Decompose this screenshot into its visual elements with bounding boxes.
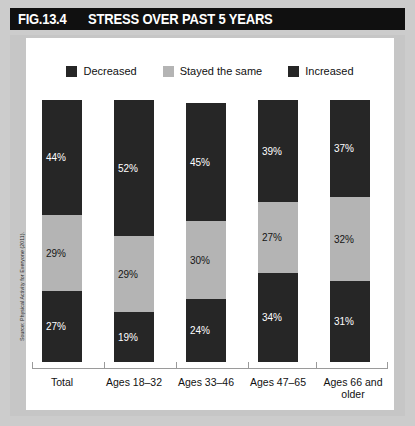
legend-label-stayed-the-same: Stayed the same — [180, 65, 263, 77]
legend-item-stayed-the-same[interactable]: Stayed the same — [163, 65, 263, 77]
chart-plot-area: 44% 29% 27% 52% 29% — [26, 100, 394, 362]
bar-segment-stayed-the-same[interactable]: 29% — [42, 215, 82, 291]
chart-panel: Decreased Stayed the same Increased 44% — [26, 38, 394, 410]
bar-segment-value: 29% — [114, 269, 138, 280]
bar-segment-value: 39% — [258, 146, 282, 157]
category-label-ages-47-65: Ages 47–65 — [242, 376, 314, 388]
bar-segment-value: 34% — [258, 312, 282, 323]
bar-segment-decreased[interactable]: 45% — [186, 103, 226, 221]
bar-segment-stayed-the-same[interactable]: 27% — [258, 202, 298, 273]
bar-column-ages-47-65[interactable]: 39% 27% 34% — [258, 100, 298, 362]
axis-tick — [176, 362, 177, 369]
category-label-ages-33-46: Ages 33–46 — [170, 376, 242, 388]
bar-segment-decreased[interactable]: 52% — [114, 100, 154, 236]
bar-segment-value: 44% — [42, 152, 66, 163]
bar-segment-increased[interactable]: 19% — [114, 312, 154, 362]
legend-label-increased: Increased — [305, 65, 353, 77]
bar-segment-value: 29% — [42, 248, 66, 259]
bar-segment-value: 37% — [330, 143, 354, 154]
square-swatch-icon — [66, 66, 77, 77]
chart-legend: Decreased Stayed the same Increased — [26, 65, 394, 77]
legend-item-decreased[interactable]: Decreased — [66, 65, 136, 77]
figure-plate: Source: Physical Activity for Everyone (… — [10, 35, 405, 416]
bar-segment-decreased[interactable]: 44% — [42, 100, 82, 215]
axis-tick — [316, 362, 317, 369]
bar-column-ages-33-46[interactable]: 45% 30% 24% — [186, 103, 226, 362]
axis-tick — [248, 362, 249, 369]
square-swatch-icon — [288, 66, 299, 77]
bar-segment-stayed-the-same[interactable]: 30% — [186, 221, 226, 299]
bar-segment-increased[interactable]: 27% — [42, 291, 82, 362]
square-swatch-icon — [163, 66, 174, 77]
figure-title-bar: FIG.13.4 STRESS OVER PAST 5 YEARS — [10, 8, 405, 30]
category-label-total: Total — [26, 376, 98, 388]
category-axis — [26, 362, 394, 373]
bar-segment-value: 24% — [186, 325, 210, 336]
bar-segment-value: 32% — [330, 234, 354, 245]
axis-line — [32, 368, 388, 369]
axis-tick — [387, 362, 388, 369]
bar-segment-decreased[interactable]: 39% — [258, 100, 298, 202]
category-labels: Total Ages 18–32 Ages 33–46 Ages 47–65 A… — [26, 376, 394, 410]
category-label-ages-66-and-older: Ages 66 and older — [315, 376, 391, 400]
bar-segment-value: 19% — [114, 332, 138, 343]
figure-number: FIG.13.4 — [18, 11, 66, 27]
legend-item-increased[interactable]: Increased — [288, 65, 353, 77]
axis-tick — [32, 362, 33, 369]
bar-segment-value: 27% — [258, 232, 282, 243]
bar-segment-stayed-the-same[interactable]: 29% — [114, 236, 154, 312]
legend-label-decreased: Decreased — [83, 65, 136, 77]
figure-title: STRESS OVER PAST 5 YEARS — [88, 11, 273, 27]
bar-segment-stayed-the-same[interactable]: 32% — [330, 197, 370, 281]
figure-container: FIG.13.4 STRESS OVER PAST 5 YEARS Source… — [0, 0, 415, 426]
bar-column-ages-18-32[interactable]: 52% 29% 19% — [114, 100, 154, 362]
bar-segment-increased[interactable]: 31% — [330, 281, 370, 362]
bar-column-ages-66-and-older[interactable]: 37% 32% 31% — [330, 100, 370, 362]
axis-tick — [104, 362, 105, 369]
bar-segment-decreased[interactable]: 37% — [330, 100, 370, 197]
bar-segment-value: 27% — [42, 321, 66, 332]
bar-segment-value: 45% — [186, 157, 210, 168]
category-label-ages-18-32: Ages 18–32 — [98, 376, 170, 388]
bar-column-total[interactable]: 44% 29% 27% — [42, 100, 82, 362]
figure-source-note: Source: Physical Activity for Everyone (… — [19, 211, 25, 341]
bar-segment-value: 52% — [114, 163, 138, 174]
bar-segment-increased[interactable]: 34% — [258, 273, 298, 362]
bar-segment-value: 31% — [330, 316, 354, 327]
bar-segment-increased[interactable]: 24% — [186, 299, 226, 362]
bar-segment-value: 30% — [186, 255, 210, 266]
